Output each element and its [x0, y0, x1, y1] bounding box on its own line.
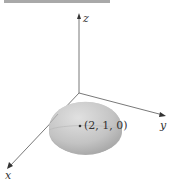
y-arrowhead-icon	[159, 112, 166, 117]
3d-axes-diagram	[0, 0, 170, 182]
z-arrowhead-icon	[77, 13, 81, 19]
z-axis-label: z	[83, 13, 89, 24]
x-arrowhead-icon	[7, 162, 13, 169]
point-marker	[79, 125, 82, 128]
x-axis-label: x	[5, 170, 11, 181]
point-label: (2, 1, 0)	[84, 120, 128, 131]
y-axis-label: y	[160, 120, 166, 131]
